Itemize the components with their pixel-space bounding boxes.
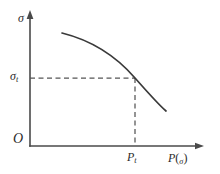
x-axis-label: P(σ)	[168, 152, 187, 166]
x-axis-label-close-paren: )	[183, 151, 187, 165]
x-threshold-tick-label: Pt	[127, 151, 137, 165]
origin-label: O	[13, 132, 23, 146]
y-threshold-tick-label: σt	[10, 70, 18, 84]
y-threshold-subscript: t	[16, 75, 18, 84]
x-threshold-subscript: t	[134, 156, 136, 165]
y-axis-label: σ	[18, 12, 24, 24]
x-axis-arrow-icon	[195, 143, 204, 150]
x-axis	[30, 143, 204, 150]
data-curve-line	[62, 33, 166, 111]
y-axis-arrow-icon	[27, 10, 34, 19]
stress-probability-figure: σ O σt Pt P(σ)	[0, 0, 220, 174]
chart-canvas	[0, 0, 220, 174]
